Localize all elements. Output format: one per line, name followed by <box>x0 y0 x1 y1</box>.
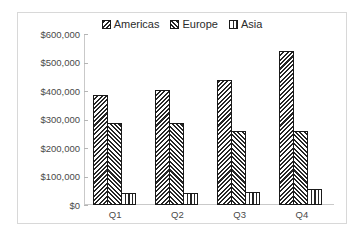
legend-swatch-asia-icon <box>229 20 238 29</box>
bar-europe-q3[interactable] <box>231 131 246 205</box>
legend-swatch-europe-icon <box>170 20 179 29</box>
bar-americas-q4[interactable] <box>279 51 294 205</box>
bar-group <box>155 34 200 205</box>
chart-frame: Americas Europe Asia $0$100,000$200,000$… <box>17 12 347 224</box>
y-axis-tick-label: $600,000 <box>40 28 84 39</box>
legend-item-asia[interactable]: Asia <box>229 19 262 30</box>
y-axis-tick-label: $0 <box>69 199 84 210</box>
bar-asia-q2[interactable] <box>183 193 198 205</box>
legend-label-europe: Europe <box>182 19 217 30</box>
bar-asia-q3[interactable] <box>245 192 260 205</box>
y-axis-tick-label: $100,000 <box>40 171 84 182</box>
legend-swatch-americas-icon <box>102 20 111 29</box>
bar-group <box>279 34 324 205</box>
y-axis-tick-mark <box>84 205 88 206</box>
x-axis-label-q3: Q3 <box>209 209 271 220</box>
y-axis-tick-label: $200,000 <box>40 142 84 153</box>
bar-asia-q1[interactable] <box>121 193 136 205</box>
bar-americas-q1[interactable] <box>93 95 108 205</box>
plot-area <box>84 34 333 205</box>
x-axis-label-q4: Q4 <box>271 209 333 220</box>
bar-asia-q4[interactable] <box>307 189 322 205</box>
x-axis-label-q2: Q2 <box>146 209 208 220</box>
bar-group <box>217 34 262 205</box>
bar-europe-q2[interactable] <box>169 123 184 205</box>
legend-item-europe[interactable]: Europe <box>170 19 217 30</box>
bar-group <box>93 34 138 205</box>
bar-americas-q3[interactable] <box>217 80 232 205</box>
legend-label-americas: Americas <box>114 19 160 30</box>
y-axis-tick-label: $500,000 <box>40 57 84 68</box>
legend-label-asia: Asia <box>241 19 262 30</box>
legend-item-americas[interactable]: Americas <box>102 19 160 30</box>
y-axis-tick-label: $300,000 <box>40 114 84 125</box>
y-axis-tick-label: $400,000 <box>40 85 84 96</box>
bar-americas-q2[interactable] <box>155 90 170 205</box>
bar-europe-q1[interactable] <box>107 123 122 205</box>
bar-europe-q4[interactable] <box>293 131 308 205</box>
x-axis-label-q1: Q1 <box>84 209 146 220</box>
